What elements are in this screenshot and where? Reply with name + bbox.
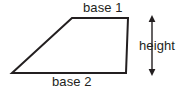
base-1-label: base 1	[83, 1, 123, 14]
trapezoid-diagram: base 1 base 2 height	[0, 0, 180, 95]
height-label: height	[139, 39, 175, 52]
trapezoid-shape	[12, 18, 128, 73]
base-2-label: base 2	[52, 75, 92, 88]
height-arrow-head-down	[149, 69, 156, 76]
height-arrow-head-up	[149, 15, 156, 22]
